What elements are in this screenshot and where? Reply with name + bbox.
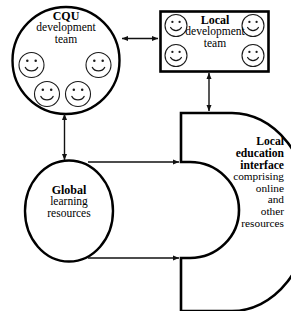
smiley-face-icon [165, 15, 187, 37]
node-global-learning-resources [25, 161, 113, 262]
smiley-face-icon [66, 82, 91, 107]
diagram-vector-layer [0, 0, 291, 311]
smiley-face-icon [86, 53, 111, 78]
node-local-development-team [161, 12, 269, 72]
smiley-face-icon [242, 15, 264, 37]
smiley-face-icon [19, 53, 44, 78]
node-local-education-interface [181, 113, 291, 311]
diagram-canvas: CQU development team Local development t… [0, 0, 291, 311]
smiley-face-icon [35, 82, 60, 107]
node-cqu-development-team [13, 7, 120, 114]
smiley-face-icon [242, 45, 264, 67]
smiley-face-icon [165, 45, 187, 67]
